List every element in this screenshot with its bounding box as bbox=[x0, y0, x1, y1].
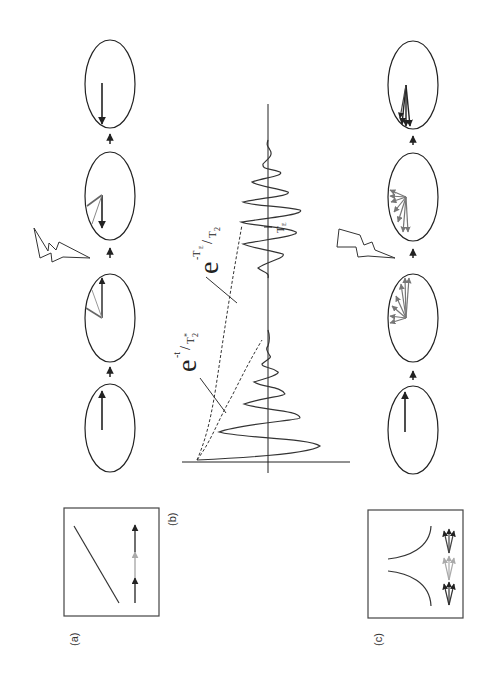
top-row-ellipses bbox=[85, 40, 135, 472]
bottom-row-ellipses bbox=[388, 41, 438, 474]
rf-pulse-lightning-icon bbox=[34, 228, 90, 262]
echo-time-label: T E bbox=[274, 222, 287, 233]
inset-c bbox=[368, 510, 463, 618]
svg-text:/: / bbox=[178, 346, 193, 350]
svg-text:e: e bbox=[171, 360, 202, 372]
t2star-formula: e -t / T * 2 bbox=[171, 333, 202, 372]
ellipse-top-2 bbox=[85, 152, 135, 240]
panel-label-c: (c) bbox=[372, 633, 384, 646]
svg-text:E: E bbox=[198, 245, 204, 249]
signal-plot bbox=[182, 104, 350, 473]
svg-text:2: 2 bbox=[213, 227, 222, 231]
svg-text:T: T bbox=[274, 226, 286, 233]
svg-text:T: T bbox=[206, 231, 218, 238]
ellipse-top-1 bbox=[85, 40, 135, 128]
panel-label-b: (b) bbox=[166, 513, 178, 526]
t2-formula: e -T E / T 2 bbox=[191, 227, 224, 274]
svg-text:e: e bbox=[193, 262, 224, 274]
svg-text:-T: -T bbox=[191, 251, 202, 260]
panel-label-a: (a) bbox=[68, 633, 80, 646]
ellipse-top-3 bbox=[85, 274, 135, 362]
inset-a bbox=[64, 508, 159, 616]
rf-pulse-lightning-icon bbox=[337, 229, 395, 258]
svg-text:-t: -t bbox=[171, 352, 182, 358]
svg-text:/: / bbox=[200, 240, 215, 244]
spin-echo-figure: e -t / T * 2 e -T E / T 2 T E bbox=[0, 0, 492, 686]
ellipse-top-4 bbox=[85, 384, 135, 472]
svg-text:E: E bbox=[281, 222, 287, 226]
svg-text:2: 2 bbox=[191, 333, 200, 337]
svg-text:T: T bbox=[184, 337, 196, 344]
